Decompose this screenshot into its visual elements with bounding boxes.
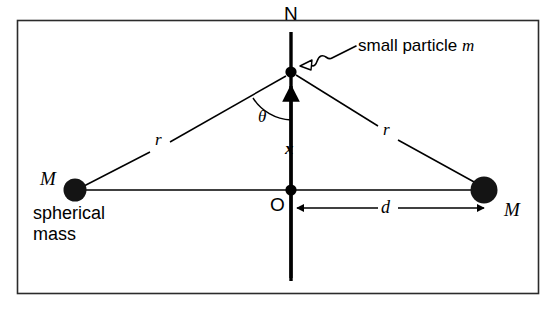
label-small-particle-annotation: small particle m	[358, 36, 474, 55]
left-spherical-mass-dot	[64, 179, 87, 202]
label-point-n: N	[284, 3, 298, 24]
label-right-mass-m: M	[504, 199, 520, 220]
label-left-radius-r: r	[155, 130, 162, 149]
right-spherical-mass-dot	[471, 177, 498, 204]
label-spherical-mass-line2: mass	[33, 224, 76, 244]
annotation-symbol-m: m	[462, 36, 474, 55]
label-angle-theta: θ	[258, 107, 266, 126]
label-spherical-mass-line1: spherical	[33, 203, 105, 223]
label-left-mass-m: M	[40, 168, 56, 189]
origin-point-dot	[285, 184, 296, 195]
small-particle-dot	[285, 66, 296, 77]
label-separation-d: d	[381, 197, 390, 217]
figure-border	[18, 21, 539, 294]
label-right-radius-r: r	[383, 120, 390, 139]
annotation-text: small particle	[358, 36, 462, 55]
label-point-o: O	[270, 194, 285, 215]
label-displacement-x: x	[285, 139, 294, 158]
figure-canvas: N O M M spherical mass r r θ x d small p…	[0, 0, 548, 311]
